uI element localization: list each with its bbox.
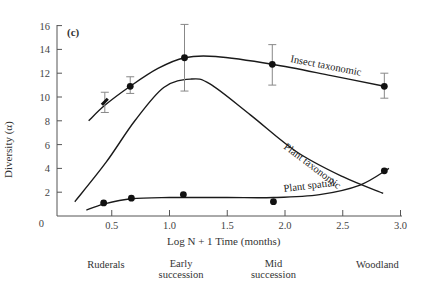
- x-tick-label: 2.0: [278, 220, 291, 231]
- x-tick-label: 0.5: [105, 220, 118, 231]
- stage-label: Midsuccession: [233, 258, 313, 280]
- axes: [57, 25, 402, 216]
- x-ticks: 0.51.01.52.02.53.0: [105, 210, 407, 231]
- insect-taxonomic-point: [269, 61, 276, 68]
- plant-spatial-point: [381, 167, 388, 174]
- y-tick-label: 14: [40, 44, 51, 55]
- plant-spatial-point: [100, 200, 107, 207]
- y-tick-label: 12: [40, 68, 51, 79]
- stage-label: Ruderals: [66, 259, 146, 270]
- plant-spatial-point: [180, 191, 187, 198]
- y-tick-label: 6: [45, 140, 50, 151]
- x-tick-label: 1.0: [163, 220, 176, 231]
- x-tick-label: 1.5: [221, 220, 234, 231]
- stage-label: Woodland: [337, 259, 417, 270]
- panel-label: (c): [67, 26, 79, 38]
- y-tick-label: 10: [40, 92, 51, 103]
- y-tick-label: 4: [45, 163, 51, 174]
- y-axis-label: Diversity (α): [2, 121, 14, 178]
- series-curves: [75, 56, 389, 210]
- x-tick-label: 2.5: [336, 220, 349, 231]
- insect-taxonomic-point: [127, 83, 134, 90]
- plant-spatial-label: Plant spatial: [283, 177, 336, 194]
- plant-spatial-point: [128, 195, 135, 202]
- plant-spatial-point: [270, 198, 277, 205]
- y-ticks: 0246810121416: [39, 21, 62, 229]
- y-tick-label: 8: [45, 116, 50, 127]
- y-tick-label: 2: [45, 187, 50, 198]
- insect-taxonomic-point: [181, 54, 188, 61]
- stage-label: Earlysuccession: [141, 258, 221, 280]
- x-tick-label: 3.0: [394, 220, 407, 231]
- y-tick-label: 16: [40, 21, 51, 32]
- insect-taxonomic-point: [381, 83, 388, 90]
- x-axis-label: Log N + 1 Time (months): [167, 235, 280, 247]
- plant-spatial-curve: [86, 168, 389, 210]
- y-tick-label: 0: [39, 218, 44, 229]
